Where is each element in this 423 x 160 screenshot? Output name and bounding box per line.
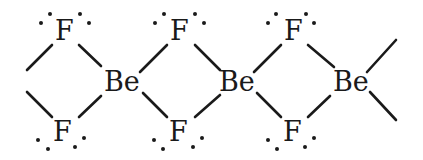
atom-f2: F: [170, 15, 189, 46]
atoms: F F F F F F Be Be Be: [53, 15, 369, 147]
bond-f5-be2: [195, 95, 220, 117]
dot-icon: [191, 145, 195, 149]
dot-icon: [36, 138, 40, 142]
atom-be3: Be: [333, 66, 369, 97]
bond-be1-f2: [140, 45, 167, 72]
dot-icon: [312, 21, 316, 25]
structure-svg: F F F F F F Be Be Be: [0, 0, 423, 160]
dot-icon: [266, 21, 270, 25]
dot-icon: [266, 138, 270, 142]
dot-icon: [275, 147, 279, 151]
bond-left-top: [27, 45, 52, 70]
dot-icon: [46, 147, 50, 151]
bond-be2-f3: [254, 45, 281, 72]
dot-icon: [274, 12, 278, 16]
bond-be3-right-bottom: [370, 92, 396, 120]
bond-be3-right-top: [367, 40, 396, 72]
bond-be2-f6: [257, 93, 281, 117]
dot-icon: [312, 136, 316, 140]
atom-f3: F: [284, 15, 303, 46]
dot-icon: [73, 145, 77, 149]
dot-icon: [193, 12, 197, 16]
dot-icon: [200, 136, 204, 140]
dot-icon: [48, 12, 52, 16]
bond-f1-be1: [79, 45, 101, 66]
dot-icon: [153, 21, 157, 25]
dot-icon: [303, 145, 307, 149]
bond-f6-be3: [308, 96, 330, 117]
atom-f1: F: [55, 15, 74, 46]
atom-f6: F: [283, 116, 302, 147]
bond-left-bottom: [27, 92, 52, 117]
dot-icon: [202, 21, 206, 25]
dot-icon: [87, 21, 91, 25]
dot-icon: [152, 138, 156, 142]
bond-f3-be3: [308, 45, 334, 67]
bond-f4-be1: [79, 96, 101, 117]
dot-icon: [162, 12, 166, 16]
atom-be2: Be: [219, 66, 255, 97]
dot-icon: [78, 12, 82, 16]
bef2-chain-diagram: F F F F F F Be Be Be: [0, 0, 423, 160]
dot-icon: [304, 12, 308, 16]
atom-f5: F: [169, 116, 188, 147]
dot-icon: [82, 136, 86, 140]
bond-be1-f5: [143, 93, 167, 117]
dot-icon: [161, 147, 165, 151]
atom-f4: F: [53, 116, 72, 147]
dot-icon: [39, 21, 43, 25]
bond-f2-be2: [195, 45, 220, 70]
atom-be1: Be: [104, 66, 140, 97]
